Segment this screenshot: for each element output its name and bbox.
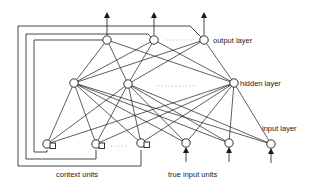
connection-edge	[74, 40, 204, 83]
output-arrows	[107, 15, 204, 35]
connection-edge	[74, 83, 271, 144]
connection-edge	[74, 83, 96, 144]
connection-edge	[47, 83, 74, 144]
context-delay-square-icon	[144, 142, 150, 148]
connection-edge	[107, 40, 128, 84]
true-input-unit	[267, 140, 275, 148]
feedback-loop-1	[34, 40, 107, 152]
output-unit	[103, 36, 111, 44]
output-unit	[200, 36, 208, 44]
connection-edge	[47, 83, 234, 144]
connection-edge	[74, 83, 141, 143]
connection-edge	[204, 40, 234, 83]
connection-edge	[74, 40, 154, 83]
connection-edge	[186, 83, 234, 143]
label-input-layer: input layer	[262, 124, 297, 133]
connection-edge	[107, 40, 234, 83]
connection-edges	[47, 40, 271, 144]
label-true-input-units: true input units	[168, 170, 217, 179]
connection-edge	[141, 83, 234, 143]
connection-edge	[154, 40, 234, 83]
connection-edge	[74, 40, 107, 83]
connection-edge	[128, 84, 229, 143]
true-input-unit	[182, 139, 190, 147]
context-delay-square-icon	[99, 143, 105, 149]
label-output-layer: output layer	[213, 36, 253, 45]
recurrent-network-diagram: output layer hidden layer input layer co…	[0, 0, 309, 187]
connection-edge	[128, 84, 186, 143]
input-arrows	[186, 150, 271, 163]
connection-edge	[128, 84, 271, 144]
hidden-unit	[70, 79, 78, 87]
context-delay-square-icon	[50, 143, 56, 149]
connection-edge	[128, 84, 141, 143]
true-input-unit	[225, 139, 233, 147]
label-hidden-layer: hidden layer	[240, 79, 281, 88]
label-context-units: context units	[56, 170, 98, 179]
hidden-unit	[124, 80, 132, 88]
connection-edge	[229, 83, 234, 143]
output-unit	[150, 36, 158, 44]
hidden-unit	[230, 79, 238, 87]
connection-edge	[234, 83, 271, 144]
